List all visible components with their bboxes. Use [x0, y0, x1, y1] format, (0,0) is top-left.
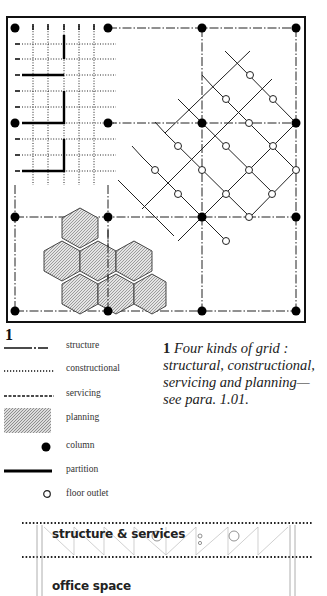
structure-services-label: structure & services [52, 527, 185, 541]
floor-outlet-icon [246, 120, 253, 127]
partitions [22, 35, 64, 171]
floor-outlets [152, 72, 300, 245]
column-icon [11, 307, 20, 316]
floor-outlet-icon [269, 191, 276, 198]
column-icon [11, 213, 20, 222]
legend-item-partition: partition [0, 464, 160, 484]
column-icon [198, 213, 207, 222]
legend-item-planning: planning [0, 408, 160, 434]
floor-outlet-icon [223, 143, 230, 150]
floor-outlet-icon [247, 72, 254, 79]
figure-caption: 1 Four kinds of grid : structural, const… [163, 340, 323, 408]
floor-outlet-icon [246, 214, 253, 221]
column-icon [104, 213, 113, 222]
caption-number: 1 [163, 340, 170, 356]
floor-outlet-icon [223, 191, 230, 198]
legend-item-floor-outlet: floor outlet [0, 488, 160, 508]
partition-line-icon [4, 468, 54, 474]
duct-icon [229, 531, 239, 541]
grid-diagram [0, 0, 327, 330]
planning-hexagons [44, 208, 166, 314]
floor-outlet-icon [270, 143, 277, 150]
constructional-ticks [15, 24, 94, 171]
floor-outlet-icon [175, 143, 182, 150]
floor-outlet-icon [246, 167, 253, 174]
column-icon [11, 24, 20, 33]
legend-item-constructional: constructional [0, 363, 160, 383]
column-icon [104, 24, 113, 33]
legend-item-servicing: servicing [0, 388, 160, 408]
duct-icon [198, 534, 202, 538]
office-space-label: office space [52, 579, 131, 593]
column-icon [292, 24, 301, 33]
structure-line-icon [4, 345, 54, 351]
caption-text: Four kinds of grid : structural, constru… [163, 340, 315, 407]
legend-item-column: column [0, 440, 160, 460]
column-icon [104, 307, 113, 316]
column-icon [292, 119, 301, 128]
column-icon [292, 307, 301, 316]
floor-outlet-icon [270, 96, 277, 103]
floor-outlet-icon [152, 167, 159, 174]
servicing-line-icon [4, 393, 54, 399]
duct-icon [198, 541, 201, 544]
floor-outlet-icon [199, 167, 206, 174]
column-icon [104, 119, 113, 128]
planning-hatch-icon [4, 408, 51, 433]
legend-item-structure: structure [0, 340, 160, 360]
column-icon [11, 119, 20, 128]
column-icon [292, 213, 301, 222]
floor-outlet-icon [223, 238, 230, 245]
floor-outlet-icon [175, 191, 182, 198]
constructional-line-icon [4, 368, 54, 374]
floor-outlet-icon [293, 167, 300, 174]
floor-outlet-icon [42, 489, 52, 499]
column-icon [198, 119, 207, 128]
floor-outlet-icon [223, 96, 230, 103]
column-icon [198, 24, 207, 33]
column-icon [40, 441, 52, 453]
column-icon [198, 307, 207, 316]
constructional-grid [22, 26, 116, 185]
